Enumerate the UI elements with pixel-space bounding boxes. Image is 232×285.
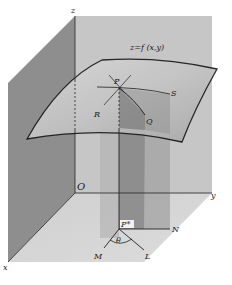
label-point-s: S	[171, 89, 177, 98]
label-origin: O	[77, 181, 85, 192]
label-point-p-star: P*	[120, 220, 130, 229]
label-surface-equation: z=f (x,y)	[129, 43, 164, 52]
label-point-p: P	[113, 77, 120, 86]
label-y-axis: y	[210, 191, 216, 200]
label-point-l: L	[144, 252, 150, 261]
directional-derivative-diagram: z y x O z=f (x,y) P S R Q P* N M L θ	[0, 0, 232, 285]
label-point-r: R	[93, 110, 100, 119]
label-z-axis: z	[70, 6, 76, 15]
diagram-canvas: z y x O z=f (x,y) P S R Q P* N M L θ	[0, 0, 232, 285]
label-x-axis: x	[3, 263, 8, 272]
label-point-q: Q	[146, 117, 153, 126]
label-angle-theta: θ	[116, 236, 121, 245]
label-point-m: M	[93, 252, 103, 261]
label-point-n: N	[171, 225, 180, 234]
